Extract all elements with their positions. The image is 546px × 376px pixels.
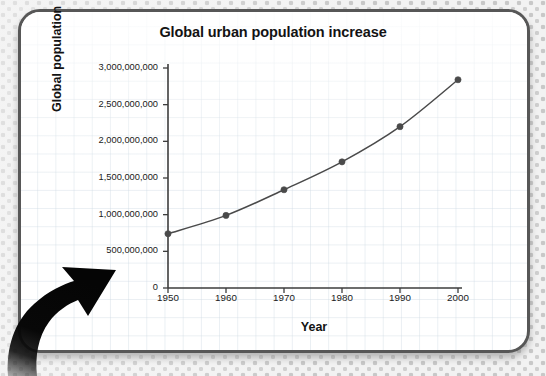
series-line-path xyxy=(168,80,458,234)
data-point-marker xyxy=(223,212,229,218)
series-data-points xyxy=(165,77,461,237)
data-point-marker xyxy=(281,187,287,193)
data-point-marker xyxy=(165,231,171,237)
data-point-marker xyxy=(339,159,345,165)
data-point-marker xyxy=(455,77,461,83)
curved-up-right-arrow-icon xyxy=(4,252,126,376)
data-point-marker xyxy=(397,124,403,130)
chart-tickmarks xyxy=(163,68,458,293)
